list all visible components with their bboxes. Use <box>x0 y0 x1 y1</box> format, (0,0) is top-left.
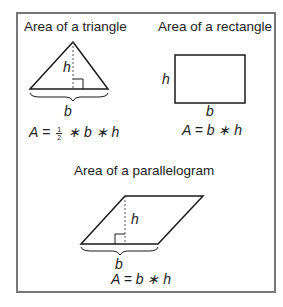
triangle-height-label: h <box>63 59 71 75</box>
triangle-title: Area of a triangle <box>24 19 127 34</box>
rectangle-height-label: h <box>162 71 170 87</box>
parallelogram-base-label: b <box>115 256 123 272</box>
triangle-base-label: b <box>64 103 72 119</box>
parallelogram-shape <box>81 196 203 255</box>
rectangle-shape <box>175 55 245 103</box>
parallelogram-formula: A = b ∗ h <box>111 271 171 287</box>
rectangle-title: Area of a rectangle <box>158 19 272 34</box>
parallelogram-title: Area of a parallelogram <box>74 163 214 178</box>
shapes-canvas <box>0 0 283 307</box>
triangle-formula: A = 12 ∗ b ∗ h <box>29 124 119 141</box>
formula-eq: = <box>42 124 50 140</box>
formula-lhs: A <box>29 124 38 140</box>
formula-rest: ∗ b ∗ h <box>68 124 119 140</box>
rectangle-formula: A = b ∗ h <box>182 122 242 138</box>
parallelogram-height-label: h <box>131 211 139 227</box>
fraction-one-half: 12 <box>56 126 62 141</box>
rectangle-base-label: b <box>206 103 214 119</box>
